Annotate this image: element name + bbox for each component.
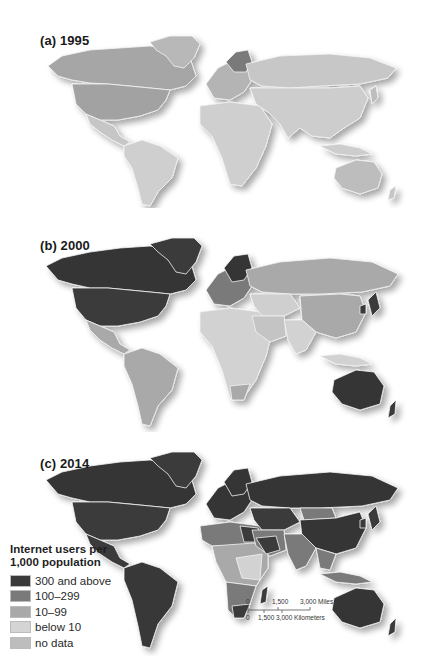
legend-item-300-above: 300 and above [10, 573, 130, 589]
region-south-america [124, 348, 178, 426]
region-south-america [124, 562, 178, 648]
map-panel-1995: (a) 1995 [0, 28, 430, 208]
legend-swatch [10, 621, 31, 633]
region-indonesia [320, 144, 372, 156]
legend-swatch [10, 637, 31, 649]
legend-label: 300 and above [35, 575, 111, 587]
panel-label-2014: (c) 2014 [40, 456, 89, 471]
scale-km-3000: 3,000 Kilometers [276, 614, 325, 621]
legend-label: 100–299 [35, 590, 80, 602]
region-japan [370, 86, 378, 104]
region-south-america [124, 140, 178, 206]
map-legend: Internet users per 1,000 population 300 … [10, 543, 130, 651]
legend-swatch [10, 606, 31, 618]
region-japan [368, 292, 380, 316]
region-new-zealand [388, 186, 396, 200]
legend-item-below-10: below 10 [10, 620, 130, 636]
world-map-2000 [0, 236, 430, 432]
region-russia [246, 54, 396, 88]
region-russia [246, 472, 398, 508]
map-panel-2000: (b) 2000 [0, 236, 430, 432]
region-korea [360, 304, 366, 314]
region-new-zealand [388, 400, 396, 418]
scale-km-0: 0 [246, 614, 250, 621]
region-japan [368, 506, 380, 530]
region-africa [200, 102, 272, 186]
region-korea [360, 518, 366, 528]
region-new-zealand [388, 618, 396, 636]
legend-label: no data [35, 637, 73, 649]
panel-label-2000: (b) 2000 [40, 238, 90, 253]
world-map-1995 [0, 28, 430, 208]
legend-swatch [10, 590, 31, 602]
legend-label: below 10 [35, 621, 81, 633]
legend-label: 10–99 [35, 606, 67, 618]
region-indonesia [320, 354, 372, 366]
legend-item-100-299: 100–299 [10, 589, 130, 605]
region-russia [246, 258, 398, 294]
scale-km-1500: 1,500 [258, 614, 274, 621]
legend-item-10-99: 10–99 [10, 604, 130, 620]
legend-title-line2: 1,000 population [10, 556, 130, 569]
legend-title: Internet users per 1,000 population [10, 543, 130, 569]
region-australia [334, 160, 382, 194]
panel-label-1995: (a) 1995 [40, 33, 89, 48]
region-australia [332, 370, 384, 410]
legend-item-no-data: no data [10, 635, 130, 651]
scale-bar: 0 1,500 3,000 Miles 0 1,500 3,000 Kilome… [246, 598, 356, 624]
legend-swatch [10, 575, 31, 587]
region-south-africa [230, 384, 250, 400]
region-indonesia [320, 572, 372, 584]
legend-title-line1: Internet users per [10, 543, 130, 556]
